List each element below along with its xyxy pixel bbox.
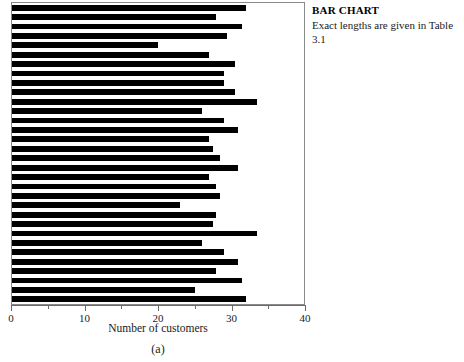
bar-row bbox=[12, 3, 304, 12]
annotation-body: Exact lengths are given in Table 3.1 bbox=[312, 18, 462, 46]
x-tick-minor bbox=[121, 305, 122, 309]
bar bbox=[12, 80, 224, 86]
bar bbox=[12, 146, 213, 152]
bar bbox=[12, 212, 216, 218]
bar bbox=[12, 268, 216, 274]
bar-row bbox=[12, 144, 304, 153]
bar-row bbox=[12, 201, 304, 210]
bar bbox=[12, 287, 195, 293]
x-tick-minor bbox=[268, 305, 269, 309]
subfigure-caption: (a) bbox=[0, 342, 316, 357]
bar bbox=[12, 42, 158, 48]
x-tick-minor bbox=[48, 305, 49, 309]
bar bbox=[12, 5, 246, 11]
bar-row bbox=[12, 172, 304, 181]
bar-row bbox=[12, 238, 304, 247]
bar-row bbox=[12, 276, 304, 285]
bar-row bbox=[12, 229, 304, 238]
bar-row bbox=[12, 31, 304, 40]
bar-row bbox=[12, 22, 304, 31]
bar bbox=[12, 71, 224, 77]
annotation-panel: BAR CHART Exact lengths are given in Tab… bbox=[312, 3, 462, 46]
bar bbox=[12, 61, 235, 67]
bar bbox=[12, 231, 257, 237]
bar bbox=[12, 249, 224, 255]
x-tick-major bbox=[305, 305, 306, 311]
bar-row bbox=[12, 69, 304, 78]
bar-row bbox=[12, 154, 304, 163]
bar bbox=[12, 33, 227, 39]
bar bbox=[12, 202, 180, 208]
bar bbox=[12, 165, 238, 171]
bar bbox=[12, 296, 246, 302]
bar-row bbox=[12, 191, 304, 200]
bar-chart-figure: 010203040 Number of customers (a) BAR CH… bbox=[0, 0, 464, 362]
bar bbox=[12, 155, 220, 161]
x-tick-major bbox=[11, 305, 12, 311]
bar bbox=[12, 99, 257, 105]
bar bbox=[12, 259, 238, 265]
bar-row bbox=[12, 210, 304, 219]
x-tick-major bbox=[158, 305, 159, 311]
x-axis-title: Number of customers bbox=[0, 322, 316, 334]
bar bbox=[12, 278, 242, 284]
bar-row bbox=[12, 59, 304, 68]
bar bbox=[12, 14, 216, 20]
x-tick-major bbox=[85, 305, 86, 311]
bar-row bbox=[12, 97, 304, 106]
bar-row bbox=[12, 163, 304, 172]
bar-row bbox=[12, 50, 304, 59]
bar bbox=[12, 136, 209, 142]
bar-row bbox=[12, 257, 304, 266]
bar bbox=[12, 221, 213, 227]
bars-container bbox=[12, 3, 304, 304]
bar-row bbox=[12, 182, 304, 191]
plot-frame bbox=[11, 2, 305, 305]
bar bbox=[12, 108, 202, 114]
x-tick-minor bbox=[195, 305, 196, 309]
bar bbox=[12, 52, 209, 58]
x-tick-major bbox=[232, 305, 233, 311]
bar-row bbox=[12, 88, 304, 97]
bar-row bbox=[12, 295, 304, 304]
bar bbox=[12, 24, 242, 30]
bar-row bbox=[12, 248, 304, 257]
bar-row bbox=[12, 285, 304, 294]
bar-row bbox=[12, 78, 304, 87]
bar-row bbox=[12, 116, 304, 125]
bar bbox=[12, 193, 220, 199]
bar bbox=[12, 127, 238, 133]
bar bbox=[12, 118, 224, 124]
bar bbox=[12, 240, 202, 246]
bar-row bbox=[12, 12, 304, 21]
bar-row bbox=[12, 106, 304, 115]
bar-row bbox=[12, 41, 304, 50]
bar bbox=[12, 89, 235, 95]
annotation-title: BAR CHART bbox=[312, 3, 462, 17]
bar-row bbox=[12, 266, 304, 275]
bar bbox=[12, 174, 209, 180]
bar bbox=[12, 184, 216, 190]
bar-row bbox=[12, 125, 304, 134]
bar-row bbox=[12, 219, 304, 228]
bar-row bbox=[12, 135, 304, 144]
